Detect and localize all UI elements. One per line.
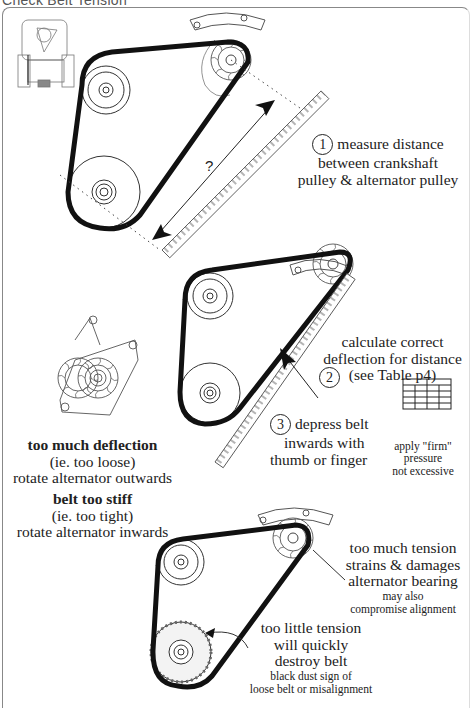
too-loose-heading: too much deflection xyxy=(5,437,180,454)
pressure-note-line1: apply "firm" xyxy=(378,440,468,452)
too-much-tension-line1: too much tension xyxy=(335,540,471,557)
too-little-tension-line2: will quickly xyxy=(236,637,386,654)
too-little-tension-sub1: black dust sign of xyxy=(236,670,386,682)
too-little-tension-line1: too little tension xyxy=(236,620,386,637)
step1-line1: measure distance xyxy=(337,135,443,152)
too-tight-text: belt too stiff (ie. too tight) rotate al… xyxy=(5,491,180,541)
engine-thumbnail xyxy=(18,20,74,87)
step1-number-badge: 1 xyxy=(312,134,333,155)
step2-number-badge: 2 xyxy=(319,367,340,388)
too-little-tension-line3: destroy belt xyxy=(236,653,386,670)
too-little-tension-text: too little tension will quickly destroy … xyxy=(236,620,386,695)
pressure-note: apply "firm" pressure not excessive xyxy=(378,440,468,477)
step1-line3: pulley & alternator pulley xyxy=(285,172,471,189)
too-tight-heading: belt too stiff xyxy=(5,491,180,508)
step3-number-badge: 3 xyxy=(270,414,291,435)
too-much-tension-sub1: may also xyxy=(335,590,471,602)
too-tight-line2: rotate alternator inwards xyxy=(5,524,180,541)
step3-line1: depress belt xyxy=(295,415,369,432)
step2-line1: calculate correct xyxy=(310,334,471,351)
too-much-tension-sub2: compromise alignment xyxy=(335,603,471,615)
too-much-tension-line3: alternator bearing xyxy=(335,573,471,590)
too-loose-line1: (ie. too loose) xyxy=(5,454,180,471)
too-much-tension-line2: strains & damages xyxy=(335,557,471,574)
too-loose-text: too much deflection (ie. too loose) rota… xyxy=(5,437,180,487)
step1-text: 1measure distance between crankshaft pul… xyxy=(285,134,471,188)
step3-text: 3depress belt inwards with thumb or fing… xyxy=(270,414,375,468)
step1-line2: between crankshaft xyxy=(285,155,471,172)
distance-label: ? xyxy=(205,157,213,174)
too-much-tension-text: too much tension strains & damages alter… xyxy=(335,540,471,615)
too-loose-line2: rotate alternator outwards xyxy=(5,470,180,487)
step3-line3: thumb or finger xyxy=(270,452,375,469)
step2-line2: deflection for distance xyxy=(310,351,471,368)
alternator-illustration xyxy=(58,316,138,415)
too-little-tension-sub2: loose belt or misalignment xyxy=(236,683,386,695)
pressure-note-line2: pressure xyxy=(378,452,468,464)
step3-line2: inwards with xyxy=(270,435,375,452)
too-tight-line1: (ie. too tight) xyxy=(5,508,180,525)
pressure-note-line3: not excessive xyxy=(378,465,468,477)
